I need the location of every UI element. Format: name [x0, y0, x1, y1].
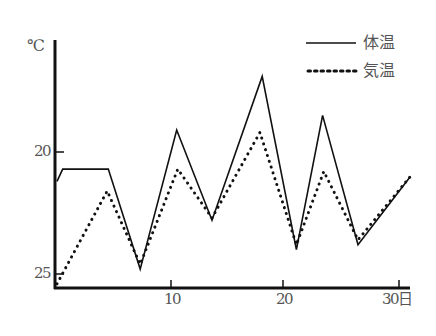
x-tick-label-20: 20: [276, 292, 292, 307]
legend-label-air-temp: 気温: [363, 63, 395, 79]
y-unit-label: ℃: [27, 38, 45, 54]
x-tick-label-30: 30日: [382, 292, 412, 307]
x-tick-label-10: 10: [164, 292, 180, 307]
series-air-temp-line: [57, 133, 410, 284]
legend-label-body-temp: 体温: [363, 35, 395, 51]
y-tick-label-20: 20: [34, 144, 50, 159]
series-body-temp-line: [57, 76, 410, 269]
series-layer: [57, 76, 410, 283]
y-tick-label-25: 25: [34, 266, 50, 281]
